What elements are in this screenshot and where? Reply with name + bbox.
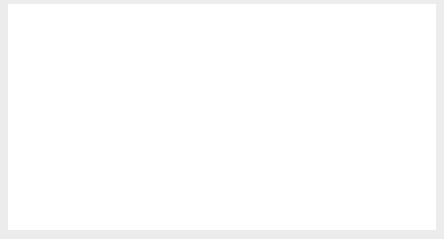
chart-figure: 0123456789 2000200120022003 30-year fixe… [0, 0, 444, 239]
figure-card [8, 4, 436, 230]
